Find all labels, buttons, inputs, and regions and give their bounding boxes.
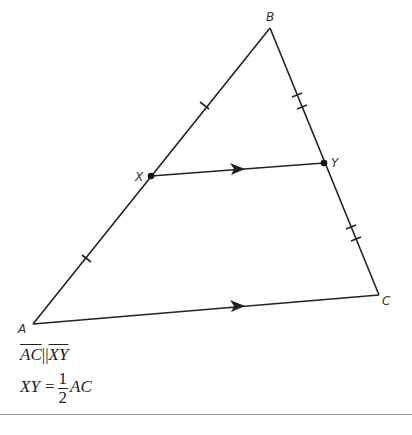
label-a: A bbox=[17, 322, 26, 336]
segment-ac bbox=[33, 295, 379, 324]
parallel-arrow-ac bbox=[230, 300, 245, 312]
given-parallel: AC||XY bbox=[20, 345, 68, 365]
point-x bbox=[148, 173, 155, 180]
point-y bbox=[321, 160, 328, 167]
ratio-left: XY = bbox=[20, 377, 56, 396]
label-x: X bbox=[134, 170, 144, 184]
segment-xy-label: XY bbox=[49, 345, 69, 364]
parallel-symbol: || bbox=[42, 345, 49, 364]
fraction-denominator: 2 bbox=[58, 389, 69, 407]
label-b: B bbox=[266, 10, 274, 24]
fraction-numerator: 1 bbox=[58, 370, 69, 389]
fraction: 12 bbox=[58, 370, 69, 407]
segment-ac-label: AC bbox=[20, 345, 42, 364]
ratio-right: AC bbox=[70, 377, 92, 396]
given-ratio: XY =12AC bbox=[20, 370, 92, 407]
label-y: Y bbox=[331, 156, 340, 170]
divider bbox=[0, 414, 412, 415]
parallel-arrow-xy bbox=[230, 163, 245, 175]
label-c: C bbox=[382, 294, 391, 308]
